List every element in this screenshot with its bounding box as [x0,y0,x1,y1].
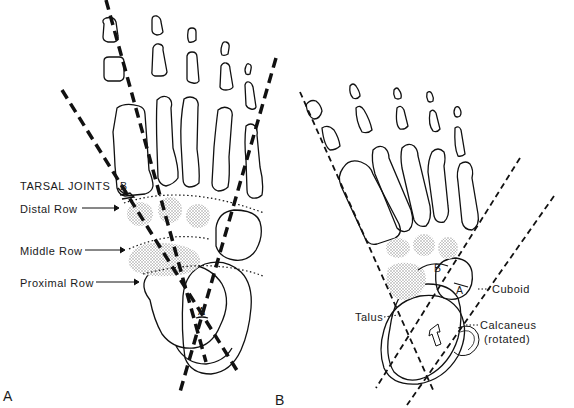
cuboid-a [216,210,261,260]
angle-b-label-a: B [120,180,128,192]
calcaneus-label: Calcaneus [480,319,536,331]
angle-a-label-b: A [456,284,464,296]
tarsal-joints-heading: TARSAL JOINTS [20,180,110,192]
metatarsal-2 [157,96,179,186]
metatarsal-4 [212,107,232,191]
hallux-proximal-phalanx [104,57,124,81]
foot-tarsal-joints-diagram [0,0,574,408]
angle-b-label-b: B [434,262,442,274]
panel-a-label: A [3,388,12,404]
talus-label: Talus [355,311,383,323]
distal-row-label: Distal Row [20,203,78,215]
calcaneus-note: (rotated) [484,333,530,345]
metatarsal-1 [113,104,153,196]
proximal-row-label: Proximal Row [20,277,94,289]
cuboid-label: Cuboid [492,283,530,295]
rotation-arrow [429,324,441,346]
panel-b-label: B [275,392,284,408]
angle-a-label-a: A [198,305,206,317]
metatarsal-3 [181,97,199,187]
panel-a-axis-lines [62,0,276,392]
panel-a-stipple [127,197,210,276]
middle-row-label: Middle Row [20,245,82,257]
angle-a-marker-a [196,317,208,318]
